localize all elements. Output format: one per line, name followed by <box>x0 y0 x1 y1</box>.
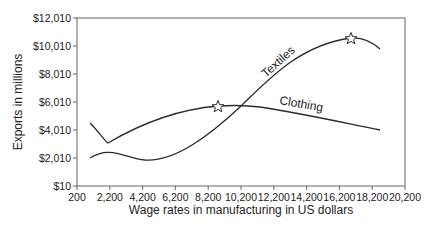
x-axis: 2002,2004,2006,2008,20010,20012,20014,20… <box>68 186 421 203</box>
y-tick-label: $4,010 <box>39 124 71 136</box>
clothing-star-marker <box>212 101 224 112</box>
x-axis-title: Wage rates in manufacturing in US dollar… <box>129 203 353 217</box>
y-axis-title: Exports in millions <box>11 54 25 151</box>
x-tick-label: 16,200 <box>323 191 355 203</box>
x-tick-label: 18,200 <box>356 191 388 203</box>
line-chart: $10$2,010$4,010$6,010$8,010$10,010$12,01… <box>0 0 431 231</box>
textiles-curve <box>90 38 380 160</box>
y-tick-label: $10,010 <box>33 40 71 52</box>
x-tick-label: 20,200 <box>389 191 421 203</box>
y-tick-label: $12,010 <box>33 12 71 24</box>
chart-svg: $10$2,010$4,010$6,010$8,010$10,010$12,01… <box>0 0 431 231</box>
x-tick-label: 10,200 <box>225 191 257 203</box>
textiles-star-marker <box>345 33 357 44</box>
x-tick-label: 14,200 <box>291 191 323 203</box>
y-axis: $10$2,010$4,010$6,010$8,010$10,010$12,01… <box>33 12 77 192</box>
y-tick-label: $6,010 <box>39 96 71 108</box>
x-tick-label: 12,200 <box>258 191 290 203</box>
y-tick-label: $8,010 <box>39 68 71 80</box>
x-tick-label: 200 <box>68 191 86 203</box>
x-tick-label: 4,200 <box>129 191 155 203</box>
x-tick-label: 8,200 <box>195 191 221 203</box>
x-tick-label: 2,200 <box>97 191 123 203</box>
y-tick-label: $2,010 <box>39 152 71 164</box>
plot-frame <box>77 18 405 186</box>
x-tick-label: 6,200 <box>162 191 188 203</box>
